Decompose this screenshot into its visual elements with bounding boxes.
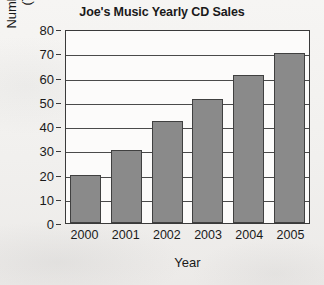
x-axis-tick-label: 2000 <box>69 228 100 242</box>
chart-title: Joe's Music Yearly CD Sales <box>0 5 324 19</box>
y-axis-tick-mark <box>56 54 61 55</box>
x-axis-tick-label: 2004 <box>234 228 265 242</box>
y-axis-tick-mark <box>56 103 61 104</box>
x-axis-tick-label: 2003 <box>193 228 224 242</box>
bar-2002 <box>152 121 183 223</box>
y-axis-tick-mark <box>56 30 61 31</box>
bar-2000 <box>70 175 101 224</box>
x-axis-tick-labels: 200020012002200320042005 <box>65 228 310 242</box>
bar-2004 <box>233 75 264 223</box>
y-axis-tick-mark <box>56 151 61 152</box>
y-axis-tick-mark <box>56 79 61 80</box>
plot-area <box>65 30 310 224</box>
y-axis-tick-label: 70 <box>40 48 54 61</box>
y-axis-tick-mark <box>56 224 61 225</box>
y-axis-title-line-1: Number of CDs Sold <box>5 0 20 29</box>
y-axis-tick-label: 20 <box>40 169 54 182</box>
y-axis-tick-mark <box>56 127 61 128</box>
x-axis-tick-label: 2005 <box>275 228 306 242</box>
bar-2005 <box>274 53 305 223</box>
x-axis-tick-label: 2001 <box>110 228 141 242</box>
bar-2003 <box>192 99 223 223</box>
bar-chart: Joe's Music Yearly CD Sales Number of CD… <box>0 0 324 285</box>
x-axis-tick-label: 2002 <box>151 228 182 242</box>
y-axis-tick-label: 80 <box>40 24 54 37</box>
y-axis-tick-mark <box>56 200 61 201</box>
y-axis-tick-mark <box>56 176 61 177</box>
bar-series <box>66 31 309 223</box>
y-axis-tick-labels: 01020304050607080 <box>0 30 61 224</box>
y-axis-tick-label: 50 <box>40 96 54 109</box>
y-axis-tick-label: 10 <box>40 193 54 206</box>
y-axis-title-line-2: (Thousands) <box>20 0 35 6</box>
y-axis-tick-label: 40 <box>40 121 54 134</box>
y-axis-tick-label: 30 <box>40 145 54 158</box>
y-axis-tick-label: 0 <box>47 218 54 231</box>
x-axis-title: Year <box>65 255 310 270</box>
bar-2001 <box>111 150 142 223</box>
y-axis-tick-label: 60 <box>40 72 54 85</box>
